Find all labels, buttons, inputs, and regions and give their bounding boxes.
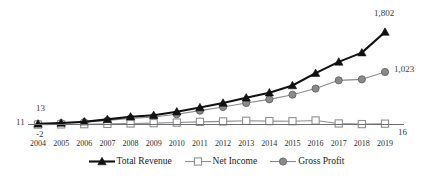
label-last-total-revenue: 1,802 xyxy=(374,9,394,18)
series-net-income xyxy=(34,117,388,128)
label-first-total-revenue: 13 xyxy=(36,104,45,113)
x-axis-tick-2016: 2016 xyxy=(308,140,324,148)
series-gross-profit-point-12-marker-circle xyxy=(312,85,319,92)
chart-plot-area xyxy=(0,0,433,179)
legend-label-net-income: Net Income xyxy=(213,157,258,167)
legend-marker-net-income xyxy=(185,156,211,167)
legend-label-total-revenue: Total Revenue xyxy=(117,157,172,167)
series-gross-profit-point-10-marker-circle xyxy=(266,96,273,103)
x-axis-tick-2007: 2007 xyxy=(99,140,115,148)
series-gross-profit xyxy=(34,68,388,127)
x-axis-tick-2014: 2014 xyxy=(261,140,277,148)
series-net-income-point-4-marker-square xyxy=(127,120,134,127)
legend-item-total-revenue[interactable]: Total Revenue xyxy=(89,156,172,167)
series-net-income-point-11-marker-square xyxy=(289,118,296,125)
legend-gross-profit-marker-circle xyxy=(280,158,287,165)
x-axis-tick-2015: 2015 xyxy=(284,140,300,148)
series-gross-profit-point-13-marker-circle xyxy=(335,77,342,84)
x-axis-tick-2005: 2005 xyxy=(53,140,69,148)
x-axis-tick-2008: 2008 xyxy=(123,140,139,148)
series-line-total-revenue xyxy=(38,32,385,124)
legend-marker-total-revenue xyxy=(89,156,115,167)
label-last-gross-profit: 1,023 xyxy=(394,65,414,74)
series-gross-profit-point-11-marker-circle xyxy=(289,91,296,98)
series-net-income-point-5-marker-square xyxy=(150,120,157,127)
x-axis-tick-2011: 2011 xyxy=(192,140,208,148)
series-net-income-point-6-marker-square xyxy=(173,119,180,126)
legend-label-gross-profit: Gross Profit xyxy=(298,157,344,167)
series-total-revenue xyxy=(34,28,389,127)
chart-container: 13 11 -2 1,802 1,023 16 2004200520062007… xyxy=(0,0,433,179)
x-axis-tick-2017: 2017 xyxy=(331,140,347,148)
series-net-income-point-8-marker-square xyxy=(219,118,226,125)
series-line-gross-profit xyxy=(38,72,385,124)
series-total-revenue-point-15-marker-triangle xyxy=(381,28,389,35)
series-net-income-point-10-marker-square xyxy=(266,118,273,125)
label-first-gross-profit: 11 xyxy=(16,118,25,127)
series-net-income-point-13-marker-square xyxy=(335,120,342,127)
series-net-income-point-9-marker-square xyxy=(243,117,250,124)
label-first-net-income: -2 xyxy=(36,130,44,139)
x-axis-tick-2004: 2004 xyxy=(30,140,46,148)
x-axis-tick-2010: 2010 xyxy=(169,140,185,148)
legend-item-gross-profit[interactable]: Gross Profit xyxy=(270,156,344,167)
x-axis-tick-2009: 2009 xyxy=(146,140,162,148)
x-axis-tick-2018: 2018 xyxy=(354,140,370,148)
chart-legend: Total RevenueNet IncomeGross Profit xyxy=(0,156,433,167)
x-axis-tick-2006: 2006 xyxy=(76,140,92,148)
legend-item-net-income[interactable]: Net Income xyxy=(185,156,258,167)
legend-marker-gross-profit xyxy=(270,156,296,167)
series-gross-profit-point-14-marker-circle xyxy=(358,76,365,83)
legend-net-income-marker-square xyxy=(194,158,201,165)
label-last-net-income: 16 xyxy=(398,128,407,137)
series-gross-profit-point-15-marker-circle xyxy=(381,68,388,75)
x-axis-tick-2013: 2013 xyxy=(238,140,254,148)
x-axis-tick-2019: 2019 xyxy=(377,140,393,148)
series-net-income-point-12-marker-square xyxy=(312,117,319,124)
x-axis-tick-2012: 2012 xyxy=(215,140,231,148)
series-net-income-point-15-marker-square xyxy=(381,120,388,127)
